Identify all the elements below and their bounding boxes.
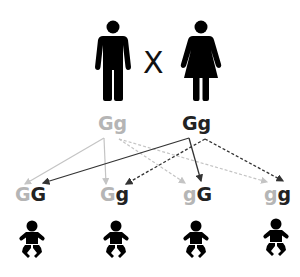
arrow-father-G-to-GG bbox=[25, 138, 104, 184]
offspring-4-allele-from-father: g bbox=[264, 185, 278, 204]
baby-icon bbox=[101, 220, 131, 260]
offspring-genotype-3: gG bbox=[183, 185, 212, 204]
offspring-genotype-2: Gg bbox=[100, 185, 129, 204]
offspring-genotype-1: GG bbox=[15, 185, 46, 204]
arrow-father-g-to-gG bbox=[119, 139, 185, 183]
offspring-1-allele-from-father: G bbox=[15, 185, 31, 204]
offspring-3-allele-from-mother: G bbox=[197, 185, 213, 204]
offspring-1-allele-from-mother: G bbox=[31, 185, 47, 204]
offspring-2-allele-from-father: G bbox=[100, 185, 116, 204]
arrow-mother-g-to-gg bbox=[205, 139, 283, 181]
offspring-2-allele-from-mother: g bbox=[116, 185, 130, 204]
offspring-4-allele-from-mother: g bbox=[278, 185, 292, 204]
baby-icon bbox=[181, 220, 211, 260]
offspring-3-allele-from-father: g bbox=[183, 185, 197, 204]
baby-icon bbox=[17, 220, 47, 260]
baby-icon bbox=[261, 218, 291, 258]
arrow-father-G-to-Gg bbox=[104, 138, 106, 184]
offspring-genotype-4: gg bbox=[264, 185, 291, 204]
